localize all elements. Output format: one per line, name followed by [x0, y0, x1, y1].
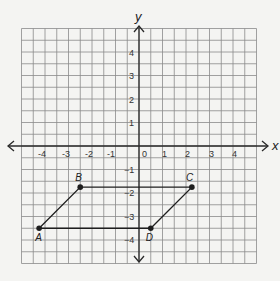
vertex-label-a: A	[34, 232, 42, 243]
y-tick-label: 3	[129, 71, 134, 81]
y-tick-label: −1	[124, 165, 134, 175]
x-tick-label: 2	[185, 149, 190, 159]
vertex-point-d	[148, 225, 154, 231]
y-tick-label: −2	[124, 188, 134, 198]
y-tick-label: 2	[129, 95, 134, 105]
x-tick-label: 0	[142, 149, 147, 159]
x-tick-label: -3	[62, 149, 70, 159]
vertex-point-a	[36, 225, 42, 231]
vertex-label-b: B	[75, 172, 82, 183]
y-axis-label: y	[134, 9, 143, 24]
x-tick-label: -1	[107, 149, 115, 159]
vertex-point-c	[189, 184, 195, 190]
x-tick-label: 4	[232, 149, 237, 159]
vertex-point-b	[77, 184, 83, 190]
y-tick-label: −4	[124, 235, 134, 245]
x-axis-label: x	[271, 138, 279, 153]
axes: x y	[8, 9, 279, 262]
x-tick-label: -4	[38, 149, 46, 159]
vertex-label-c: C	[186, 172, 194, 183]
x-tick-label: 3	[209, 149, 214, 159]
x-tick-label: -2	[85, 149, 93, 159]
y-tick-label: 4	[129, 48, 134, 58]
vertex-labels: ABCD	[34, 172, 194, 243]
x-tick-label: 1	[162, 149, 167, 159]
y-tick-label: −3	[124, 212, 134, 222]
coordinate-plane: x y -4 -3 -2 -1 0 1 2 3 4 4 3 2 1 −1 −2 …	[0, 0, 280, 281]
vertex-label-d: D	[146, 232, 153, 243]
y-tick-label: 1	[129, 118, 134, 128]
